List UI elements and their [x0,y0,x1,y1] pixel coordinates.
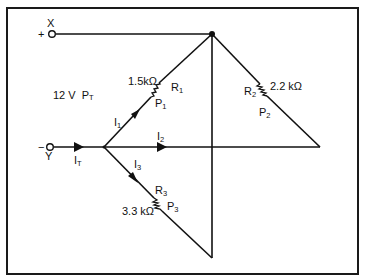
current-i1-label: I1 [114,116,121,130]
diagram-frame [7,8,358,274]
r1-name: R1 [171,81,183,95]
resistor-r3-icon [153,198,162,211]
r1-value: 1.5kΩ [128,75,157,87]
current-i2-label: I2 [157,130,164,144]
r2-value: 2.2 kΩ [270,80,302,92]
current-it-label: IT [74,154,82,168]
terminal-y-label: Y [45,150,53,162]
circuit-diagram: X + Y − 12 V PT IT I1 I2 I3 1.5kΩ R1 P1 … [0,0,366,280]
resistor-r2-icon [257,84,267,96]
current-i3-label: I3 [134,158,141,172]
terminal-x-label: X [47,17,55,29]
terminal-y-sign: − [38,141,44,153]
p2-label: P2 [259,106,271,120]
p1-label: P1 [155,97,167,111]
top-node [209,31,215,37]
source-label: 12 V PT [53,89,94,102]
p3-label: P3 [167,200,179,214]
r3-value: 3.3 kΩ [122,205,154,217]
arrow-it-icon [74,142,84,152]
junction-node [103,146,106,149]
branch-r3 [104,147,212,258]
r3-name: R3 [155,184,167,198]
terminal-x-sign: + [38,28,44,40]
branch-r2 [212,34,320,147]
r2-name: R2 [244,85,256,99]
terminal-x [49,31,56,38]
